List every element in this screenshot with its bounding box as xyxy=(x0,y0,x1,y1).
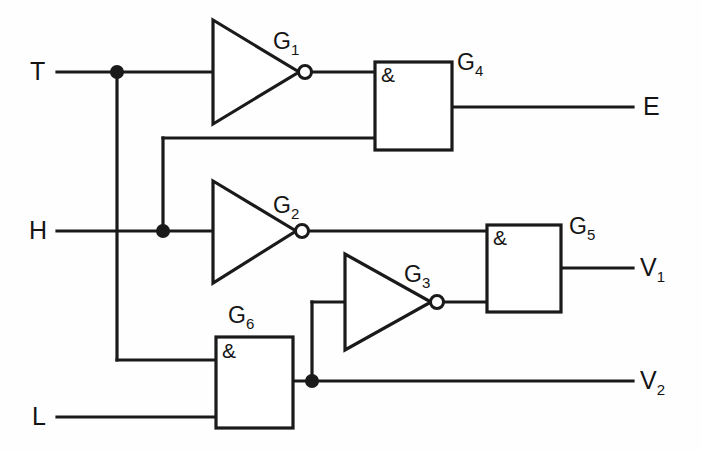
logic-circuit-diagram: T H L E V1 V2 G1 G2 G3 G4 G5 G6 & & & xyxy=(0,0,701,452)
output-label-v2: V2 xyxy=(640,368,665,397)
input-label-h-text: H xyxy=(29,216,47,244)
input-label-t: T xyxy=(30,59,45,84)
input-label-l-text: L xyxy=(32,402,46,430)
junction-dot-h-branch xyxy=(156,224,170,238)
output-label-e-text: E xyxy=(643,92,660,120)
output-label-v1-text: V xyxy=(640,253,657,281)
and-symbol-g5: & xyxy=(493,227,507,248)
output-label-e: E xyxy=(643,94,660,119)
gate-label-g2-sub: 2 xyxy=(291,205,299,222)
gate-label-g1-text: G xyxy=(273,28,291,54)
gate-label-g4: G4 xyxy=(457,51,483,78)
junction-dot-t-branch xyxy=(110,65,124,79)
junction-dot-g6-output xyxy=(305,374,319,388)
output-label-v2-sub: 2 xyxy=(657,381,665,398)
gate-label-g2: G2 xyxy=(273,194,299,221)
input-label-l: L xyxy=(32,404,46,429)
output-label-v2-text: V xyxy=(640,366,657,394)
gate-g1-inverter-bubble xyxy=(299,66,312,79)
gate-label-g4-text: G xyxy=(457,49,475,75)
gate-label-g3-sub: 3 xyxy=(422,274,430,291)
input-label-h: H xyxy=(29,218,47,243)
gate-label-g1-sub: 1 xyxy=(291,41,299,58)
circuit-schematic-canvas xyxy=(0,0,701,452)
gate-g3-inverter-bubble xyxy=(431,296,444,309)
gate-label-g4-sub: 4 xyxy=(475,62,483,79)
gate-label-g1: G1 xyxy=(273,30,299,57)
output-label-v1: V1 xyxy=(640,255,665,284)
gate-g2-inverter-bubble xyxy=(296,225,309,238)
gate-label-g6-sub: 6 xyxy=(246,315,254,332)
gate-label-g3: G3 xyxy=(404,263,430,290)
gate-label-g6-text: G xyxy=(228,302,246,328)
and-symbol-g4: & xyxy=(381,64,395,85)
input-label-t-text: T xyxy=(30,57,45,85)
gate-label-g6: G6 xyxy=(228,304,254,331)
output-label-v1-sub: 1 xyxy=(657,268,665,285)
gate-label-g2-text: G xyxy=(273,192,291,218)
and-symbol-g6: & xyxy=(222,340,236,361)
gate-label-g5-text: G xyxy=(569,213,587,239)
gate-label-g5: G5 xyxy=(569,215,595,242)
gate-label-g5-sub: 5 xyxy=(587,226,595,243)
gate-label-g3-text: G xyxy=(404,261,422,287)
